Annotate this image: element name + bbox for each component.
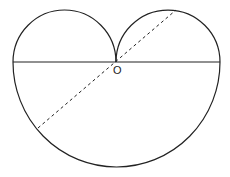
left-upper-semicircle: [13, 10, 116, 62]
large-lower-semicircle: [13, 62, 220, 167]
point-o-label: O: [113, 65, 122, 76]
dashed-chord: [38, 10, 176, 128]
right-upper-semicircle: [116, 10, 220, 62]
diagram-canvas: [0, 0, 230, 177]
